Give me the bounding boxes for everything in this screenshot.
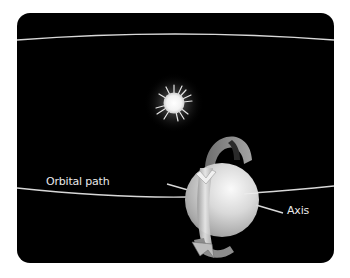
near-orbit-line-left bbox=[17, 188, 188, 197]
axis-line-right bbox=[256, 205, 283, 213]
axis-line-left bbox=[167, 184, 188, 190]
diagram-svg bbox=[0, 0, 350, 278]
near-orbit-line-right bbox=[252, 186, 334, 193]
orbital-path-label: Orbital path bbox=[46, 176, 109, 188]
axis-label: Axis bbox=[287, 205, 309, 217]
far-orbit-line bbox=[17, 34, 334, 40]
sun-icon bbox=[144, 73, 204, 133]
